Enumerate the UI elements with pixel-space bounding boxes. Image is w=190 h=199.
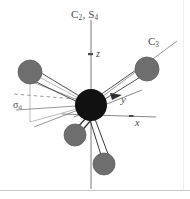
label-axis-y: y <box>121 94 126 105</box>
label-c3-axis: C3 <box>148 36 159 49</box>
ligand-upper-right <box>135 57 159 81</box>
label-c2-base: C <box>71 8 79 20</box>
bond-to-ligand-lower-right <box>90 119 108 155</box>
ligand-lower-right <box>93 153 115 175</box>
ligand-upper-left <box>18 60 42 84</box>
label-mirror-plane: σd <box>13 100 22 111</box>
label-principal-axis: C2, S4 <box>71 9 98 22</box>
central-atom <box>75 89 107 121</box>
label-axis-z: z <box>96 49 100 59</box>
label-c3-sub: 3 <box>155 41 159 49</box>
label-axis-x: x <box>135 118 139 128</box>
label-s4-sub: 4 <box>95 14 99 22</box>
molecular-symmetry-drawing <box>0 0 190 199</box>
z-arrowhead <box>88 53 93 55</box>
label-sigma-sub: d <box>18 103 21 110</box>
x-arrowhead <box>129 115 134 117</box>
c3-axis-line <box>91 41 177 105</box>
ligand-lower-left <box>64 124 86 146</box>
figure-canvas: C2, S4 C3 σd z y x <box>0 0 190 199</box>
